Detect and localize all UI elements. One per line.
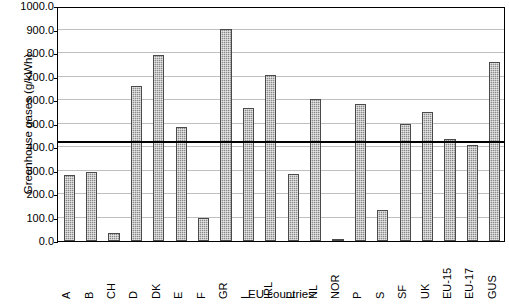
bar-L bbox=[288, 174, 299, 241]
bar-P bbox=[355, 104, 366, 241]
y-axis-tick-labels: 1000.0900.0800.0700.0600.0500.0400.0300.… bbox=[0, 0, 54, 249]
x-axis-title: EU countries bbox=[57, 288, 505, 300]
bar-B bbox=[86, 172, 97, 241]
reference-line bbox=[58, 141, 504, 143]
bar-A bbox=[64, 175, 75, 241]
bar-DK bbox=[153, 55, 164, 241]
bar-NL bbox=[310, 99, 321, 241]
y-axis-tick-label: 500.0 bbox=[2, 119, 54, 130]
y-axis-tick-label: 700.0 bbox=[2, 72, 54, 83]
bar-GR bbox=[220, 29, 231, 241]
bar-GUS bbox=[489, 62, 500, 241]
bar-EU-17 bbox=[467, 145, 478, 241]
greenhouse-gases-bar-chart: Greenhouse gases (g/kWh) 1000.0900.0800.… bbox=[0, 0, 509, 304]
y-axis-tick-label: 1000.0 bbox=[2, 1, 54, 12]
bar-E bbox=[176, 127, 187, 241]
y-axis-tick-label: 800.0 bbox=[2, 48, 54, 59]
bar-series bbox=[58, 8, 504, 241]
y-axis-tick-label: 0.0 bbox=[2, 236, 54, 247]
y-axis-tick-label: 100.0 bbox=[2, 213, 54, 224]
bar-EU-15 bbox=[444, 139, 455, 241]
y-axis-tick-label: 400.0 bbox=[2, 142, 54, 153]
bar-D bbox=[131, 86, 142, 241]
y-axis-tick-label: 300.0 bbox=[2, 166, 54, 177]
y-axis-tick-label: 200.0 bbox=[2, 189, 54, 200]
y-axis-tick-label: 900.0 bbox=[2, 25, 54, 36]
bar-I bbox=[243, 108, 254, 241]
plot-area bbox=[57, 7, 505, 242]
bar-UK bbox=[422, 112, 433, 241]
bar-IRL bbox=[265, 75, 276, 241]
y-axis-tick-label: 600.0 bbox=[2, 95, 54, 106]
